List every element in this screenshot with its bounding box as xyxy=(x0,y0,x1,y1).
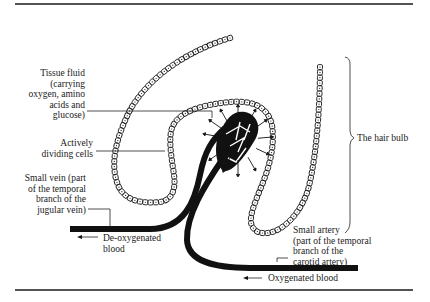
cell-nucleus xyxy=(200,49,201,50)
cell-nucleus xyxy=(118,187,119,188)
cell-nucleus xyxy=(312,167,313,168)
cell-nucleus xyxy=(114,161,115,162)
cell-nucleus xyxy=(236,101,237,102)
diffusion-arrow xyxy=(211,121,222,129)
cell-nucleus xyxy=(319,67,320,68)
label-deoxygenated-blood: De-oxygenated blood xyxy=(103,233,161,254)
cell-nucleus xyxy=(209,44,210,45)
cell-nucleus xyxy=(265,111,266,112)
cell-nucleus xyxy=(272,141,273,142)
cell-nucleus xyxy=(186,56,187,57)
cell-nucleus xyxy=(194,108,195,109)
cell-nucleus xyxy=(134,101,135,102)
cell-nucleus xyxy=(145,202,146,203)
cell-nucleus xyxy=(290,220,291,221)
cell-nucleus xyxy=(168,68,169,69)
cell-nucleus xyxy=(316,135,317,136)
cell-nucleus xyxy=(286,223,287,224)
diffusion-arrowhead xyxy=(236,174,239,177)
cell-nucleus xyxy=(160,74,161,75)
diffusion-arrowhead xyxy=(220,109,223,112)
hair-bulb-brace xyxy=(345,57,354,233)
diffusion-arrowhead xyxy=(236,104,239,107)
cell-nucleus xyxy=(214,43,215,44)
cell-nucleus xyxy=(210,104,211,105)
cell-nucleus xyxy=(195,51,196,52)
cell-nucleus xyxy=(277,229,278,230)
cell-nucleus xyxy=(224,39,225,40)
cell-nucleus xyxy=(190,54,191,55)
cell-nucleus xyxy=(124,120,125,121)
diffusion-arrowhead xyxy=(209,158,212,161)
cell-nucleus xyxy=(176,119,177,120)
cell-nucleus xyxy=(318,114,319,115)
diffusion-arrowhead xyxy=(253,168,256,171)
cell-nucleus xyxy=(127,115,128,116)
diffusion-arrow xyxy=(248,157,255,168)
cell-nucleus xyxy=(256,197,257,198)
cell-nucleus xyxy=(138,97,139,98)
diffusion-arrowhead xyxy=(253,109,256,112)
cell-nucleus xyxy=(141,93,142,94)
cell-nucleus xyxy=(268,116,269,117)
cell-nucleus xyxy=(252,103,253,104)
cell-nucleus xyxy=(247,102,248,103)
cell-nucleus xyxy=(261,108,262,109)
cell-nucleus xyxy=(309,182,310,183)
cell-nucleus xyxy=(204,105,205,106)
cell-nucleus xyxy=(241,101,242,102)
cell-nucleus xyxy=(161,201,162,202)
cell-nucleus xyxy=(172,165,173,166)
cell-nucleus xyxy=(315,146,316,147)
cell-nucleus xyxy=(170,149,171,150)
cell-nucleus xyxy=(229,37,230,38)
cell-nucleus xyxy=(271,152,272,153)
cell-nucleus xyxy=(319,93,320,94)
cell-nucleus xyxy=(173,124,174,125)
cell-nucleus xyxy=(317,119,318,120)
cell-nucleus xyxy=(116,182,117,183)
cell-nucleus xyxy=(260,187,261,188)
cell-nucleus xyxy=(174,181,175,182)
cell-nucleus xyxy=(171,155,172,156)
cell-nucleus xyxy=(181,59,182,60)
cell-nucleus xyxy=(251,212,252,213)
cell-nucleus xyxy=(262,232,263,233)
diffusion-arrowhead xyxy=(209,120,212,123)
deoxygenated-arrowhead xyxy=(77,235,82,239)
cell-nucleus xyxy=(231,101,232,102)
cell-nucleus xyxy=(170,196,171,197)
cell-nucleus xyxy=(129,198,130,199)
cell-nucleus xyxy=(314,156,315,157)
cell-nucleus xyxy=(122,125,123,126)
cell-nucleus xyxy=(114,156,115,157)
cell-nucleus xyxy=(253,207,254,208)
cell-nucleus xyxy=(134,200,135,201)
cell-nucleus xyxy=(266,172,267,173)
cell-nucleus xyxy=(306,193,307,194)
cell-nucleus xyxy=(164,71,165,72)
cell-nucleus xyxy=(199,107,200,108)
cell-nucleus xyxy=(267,167,268,168)
cell-nucleus xyxy=(270,157,271,158)
cell-nucleus xyxy=(170,144,171,145)
cell-nucleus xyxy=(317,125,318,126)
cell-nucleus xyxy=(174,176,175,177)
small-vein-leader xyxy=(88,209,110,227)
cell-nucleus xyxy=(253,228,254,229)
label-dividing-cells: Actively dividing cells xyxy=(10,138,93,159)
cell-nucleus xyxy=(267,232,268,233)
cell-nucleus xyxy=(205,47,206,48)
cell-nucleus xyxy=(272,131,273,132)
cell-nucleus xyxy=(115,177,116,178)
cell-nucleus xyxy=(293,216,294,217)
cell-nucleus xyxy=(156,78,157,79)
cell-nucleus xyxy=(270,120,271,121)
cell-nucleus xyxy=(272,126,273,127)
cell-nucleus xyxy=(318,104,319,105)
cell-nucleus xyxy=(125,195,126,196)
cell-nucleus xyxy=(119,135,120,136)
cell-nucleus xyxy=(310,177,311,178)
cell-nucleus xyxy=(148,85,149,86)
small-artery-leader xyxy=(277,258,288,262)
